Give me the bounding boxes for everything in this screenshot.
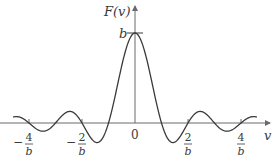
svg-text:4: 4 xyxy=(238,131,245,144)
x-tick-label: 2b xyxy=(184,131,192,158)
svg-text:b: b xyxy=(78,145,85,158)
x-tick-label: 4b xyxy=(237,131,245,158)
svg-text:b: b xyxy=(25,145,32,158)
svg-text:b: b xyxy=(184,145,191,158)
x-tick-label: −4b xyxy=(13,131,33,158)
peak-label: b xyxy=(119,26,127,41)
svg-text:4: 4 xyxy=(26,131,33,144)
x-tick-labels: −4b−2b2b4b xyxy=(13,131,245,158)
svg-text:−: − xyxy=(13,135,23,149)
svg-text:−: − xyxy=(66,135,76,149)
svg-text:2: 2 xyxy=(79,131,86,144)
svg-text:b: b xyxy=(237,145,244,158)
origin-label: 0 xyxy=(131,128,139,142)
sinc-chart: F(v) b 0 v −4b−2b2b4b xyxy=(0,0,280,163)
svg-text:2: 2 xyxy=(185,131,192,144)
y-axis-label: F(v) xyxy=(103,4,131,19)
x-tick-label: −2b xyxy=(66,131,86,158)
x-axis-label: v xyxy=(264,128,272,143)
